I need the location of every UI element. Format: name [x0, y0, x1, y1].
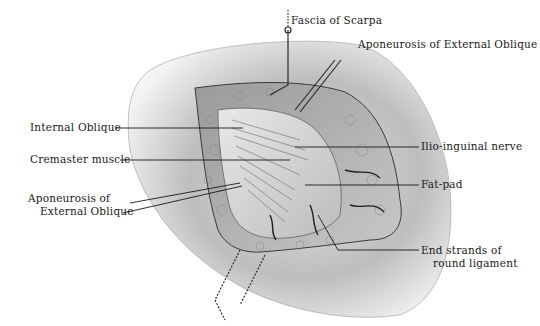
label-aponeurosis-external-oblique-left: Aponeurosis of External Oblique	[28, 192, 134, 218]
label-line-1: End strands of	[421, 244, 502, 256]
label-cremaster-muscle: Cremaster muscle	[30, 153, 130, 166]
label-fat-pad: Fat-pad	[421, 178, 463, 191]
label-aponeurosis-external-oblique-top: Aponeurosis of External Oblique	[358, 38, 537, 51]
label-line-2: round ligament	[421, 257, 518, 270]
label-line-1: Aponeurosis of	[28, 192, 110, 204]
label-fascia-of-scarpa: Fascia of Scarpa	[291, 14, 382, 27]
label-line-2: External Oblique	[28, 205, 134, 218]
label-ilio-inguinal-nerve: Ilio-inguinal nerve	[421, 140, 522, 153]
label-end-strands-round-ligament: End strands of round ligament	[421, 244, 518, 270]
label-internal-oblique: Internal Oblique	[30, 121, 121, 134]
